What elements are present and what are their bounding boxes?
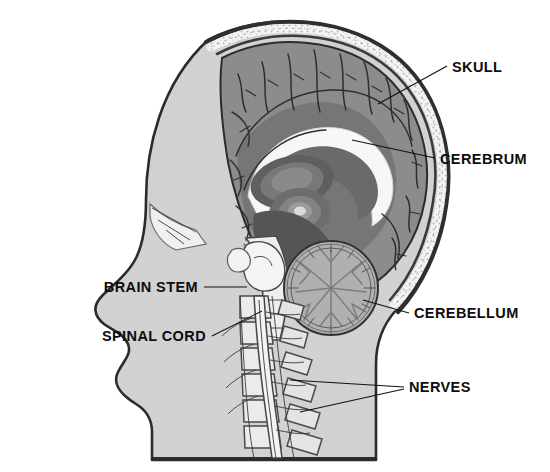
pituitary — [227, 248, 250, 272]
label-cerebrum: CEREBRUM — [440, 151, 527, 167]
cerebellum — [284, 241, 378, 335]
diagram-canvas: SKULL CEREBRUM BRAIN STEM SPINAL CORD CE… — [0, 0, 550, 472]
head-anatomy-svg: SKULL CEREBRUM BRAIN STEM SPINAL CORD CE… — [0, 0, 550, 472]
label-brain-stem: BRAIN STEM — [104, 279, 198, 295]
label-cerebellum: CEREBELLUM — [414, 305, 519, 321]
label-nerves: NERVES — [409, 379, 471, 395]
label-spinal-cord: SPINAL CORD — [102, 328, 206, 344]
label-skull: SKULL — [452, 59, 502, 75]
